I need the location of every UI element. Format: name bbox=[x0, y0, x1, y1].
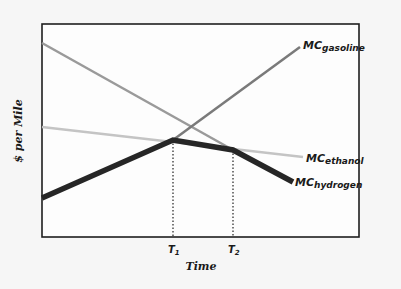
x-axis-label: Time bbox=[185, 260, 216, 273]
chart: MCgasoline MCethanol MChydrogen T1 T2 Ti… bbox=[0, 0, 401, 289]
y-axis-label: $ per Mile bbox=[12, 99, 25, 162]
